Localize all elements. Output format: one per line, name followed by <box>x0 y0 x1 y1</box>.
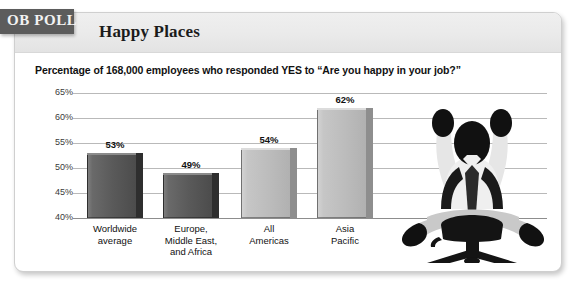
bar-top-highlight <box>241 148 297 150</box>
celebrating-office-worker-icon <box>397 91 549 263</box>
bar-top-highlight <box>317 108 373 110</box>
category-label-all-americas: All Americas <box>226 223 312 246</box>
chart-subtitle: Percentage of 168,000 employees who resp… <box>35 64 461 76</box>
bar-fill <box>87 153 143 218</box>
bar-value-label-asia-pacific: 62% <box>317 94 373 105</box>
bar-value-label-worldwide-average: 53% <box>87 139 143 150</box>
bar-all-americas <box>241 148 297 218</box>
bar-fill <box>163 173 219 218</box>
category-line: Middle East, <box>148 235 234 247</box>
bar-right-shadow <box>290 148 297 218</box>
poll-badge: OB POLL <box>0 9 74 34</box>
bar-value-label-europe-middle-east-africa: 49% <box>163 159 219 170</box>
category-line: Pacific <box>302 235 388 247</box>
bar-worldwide-average <box>87 153 143 218</box>
bar-asia-pacific <box>317 108 373 218</box>
category-line: Worldwide <box>72 223 158 235</box>
category-line: Americas <box>226 235 312 247</box>
card-header-band <box>15 13 561 53</box>
page-title: Happy Places <box>99 22 200 42</box>
poll-badge-label: OB POLL <box>7 12 77 29</box>
category-line: Europe, <box>148 223 234 235</box>
bar-europe-middle-east-africa <box>163 173 219 218</box>
screenshot-root: Happy Places Percentage of 168,000 emplo… <box>0 0 580 286</box>
category-line: and Africa <box>148 246 234 258</box>
category-label-worldwide-average: Worldwide average <box>72 223 158 246</box>
poll-card: Happy Places Percentage of 168,000 emplo… <box>14 12 562 272</box>
category-line: average <box>72 235 158 247</box>
bar-top-highlight <box>87 153 143 155</box>
bar-right-shadow <box>366 108 373 218</box>
category-label-europe-middle-east-africa: Europe, Middle East, and Africa <box>148 223 234 258</box>
bar-top-highlight <box>163 173 219 175</box>
category-line: All <box>226 223 312 235</box>
bar-fill <box>317 108 373 218</box>
bar-right-shadow <box>136 153 143 218</box>
category-line: Asia <box>302 223 388 235</box>
bar-value-label-all-americas: 54% <box>241 134 297 145</box>
bar-fill <box>241 148 297 218</box>
bar-right-shadow <box>212 173 219 218</box>
category-label-asia-pacific: Asia Pacific <box>302 223 388 246</box>
